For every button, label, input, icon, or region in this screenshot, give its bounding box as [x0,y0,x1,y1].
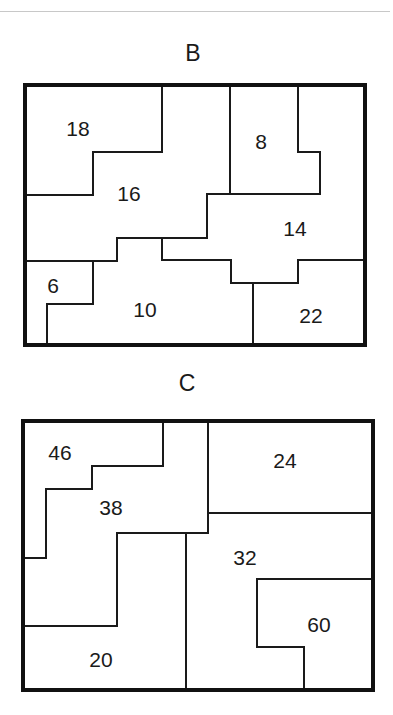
diagram-b-boundary-10-14 [162,238,365,283]
diagram-c: 46 38 24 32 60 20 [23,421,373,690]
region-label: 20 [89,648,112,671]
diagram-b-boundary-18 [25,85,162,195]
region-label: 18 [66,117,89,140]
partition-diagrams: 18 16 8 14 6 10 22 46 38 24 32 60 20 [0,0,393,715]
region-label: 8 [255,130,267,153]
diagram-c-frame [23,421,373,690]
region-label: 46 [48,441,71,464]
diagram-c-boundary-46 [23,421,163,558]
region-label: 6 [47,274,59,297]
region-label: 14 [283,217,307,240]
region-label: 60 [307,613,330,636]
diagram-b-boundary-8 [25,85,320,261]
region-label: 38 [99,496,122,519]
region-label: 16 [117,182,140,205]
region-label: 22 [299,304,322,327]
region-label: 32 [233,546,256,569]
diagram-b: 18 16 8 14 6 10 22 [25,85,365,345]
region-label: 24 [273,449,297,472]
region-label: 10 [133,298,156,321]
